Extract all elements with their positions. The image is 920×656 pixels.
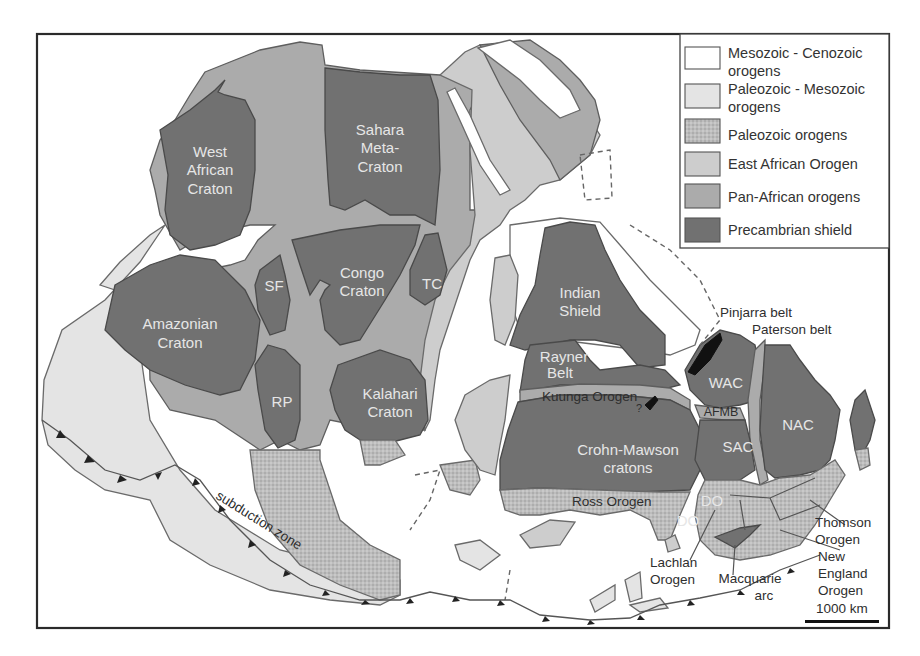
legend-label-pan-african: Pan-African orogens: [728, 189, 860, 205]
legend-swatch-precambrian: [685, 218, 720, 242]
label-nac: NAC: [782, 416, 814, 433]
label-sf: SF: [264, 277, 283, 294]
label-tc: TC: [422, 275, 442, 292]
label-congo-craton: CongoCraton: [339, 264, 384, 299]
legend-swatch-east-african: [685, 152, 720, 176]
label-wac: WAC: [709, 374, 744, 391]
label-west-african-craton: WestAfricanCraton: [187, 143, 234, 197]
label-kalahari-craton: KalahariCraton: [362, 385, 417, 420]
label-rp: RP: [272, 393, 293, 410]
legend-swatch-pan-african: [685, 184, 720, 208]
label-question-mark: ?: [636, 402, 642, 414]
label-pinjarra-belt: Pinjarra belt: [720, 305, 792, 320]
legend-swatch-paleozoic-mesozoic: [685, 84, 720, 108]
legend-label-paleozoic: Paleozoic orogens: [728, 127, 847, 143]
legend-swatch-paleozoic: [685, 119, 720, 143]
label-ross-orogen: Ross Orogen: [572, 494, 652, 509]
label-sahara-metacraton: SaharaMeta-Craton: [356, 121, 405, 175]
label-sac: SAC: [723, 438, 754, 455]
label-do-2: DO: [677, 512, 700, 529]
label-paterson-belt: Paterson belt: [752, 322, 832, 337]
label-kuunga-orogen: Kuunga Orogen: [542, 389, 637, 404]
label-afmb: AFMB: [704, 405, 739, 419]
legend-label-east-african: East African Orogen: [728, 156, 858, 172]
gondwana-map: WestAfricanCraton SaharaMeta-Craton Amaz…: [0, 0, 920, 656]
scale-bar-label: 1000 km: [816, 601, 868, 616]
label-indian-shield: IndianShield: [559, 284, 601, 319]
legend: Mesozoic - Cenozoicorogens Paleozoic - M…: [680, 34, 889, 248]
legend-swatch-mesozoic-cenozoic: [685, 47, 720, 69]
legend-label-precambrian: Precambrian shield: [728, 222, 852, 238]
label-do-1: DO: [701, 492, 724, 509]
